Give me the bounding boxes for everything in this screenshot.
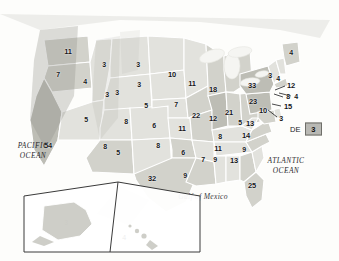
- inset-frame: [0, 0, 339, 261]
- electoral-vote-map: 1175445383385335683210711691122718129811…: [0, 0, 339, 261]
